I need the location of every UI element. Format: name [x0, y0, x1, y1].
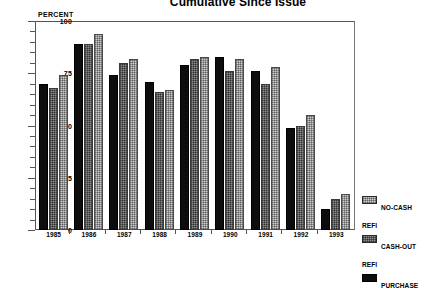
bar-group: [286, 22, 316, 230]
y-minor-tick: [30, 42, 35, 43]
bar-cashout: [84, 44, 93, 230]
bar-purchase: [215, 57, 224, 230]
y-tick-mark: [28, 126, 35, 127]
y-minor-tick: [30, 188, 35, 189]
y-tick-mark: [28, 178, 35, 179]
legend-item-purchase: PURCHASE: [362, 274, 428, 292]
chart-title: Cumulative Since Issue: [128, 0, 348, 9]
x-tick-label: 1991: [249, 231, 283, 238]
bar-series-layer: [36, 22, 354, 230]
bar-group: [321, 22, 351, 230]
bar-purchase: [251, 71, 260, 230]
y-tick-mark: [28, 21, 35, 22]
bar-purchase: [180, 65, 189, 230]
bar-cashout: [49, 88, 58, 230]
y-minor-tick: [30, 136, 35, 137]
x-tick-label: 1988: [143, 231, 177, 238]
y-minor-tick: [30, 63, 35, 64]
bar-nocash: [271, 67, 280, 230]
bar-purchase: [145, 82, 154, 230]
y-minor-tick: [30, 105, 35, 106]
x-tick-mark: [317, 230, 318, 234]
y-minor-tick: [30, 31, 35, 32]
y-tick-mark: [28, 230, 35, 231]
y-minor-tick: [30, 199, 35, 200]
bar-cashout: [190, 59, 199, 230]
x-tick-mark: [246, 230, 247, 234]
bar-group: [145, 22, 175, 230]
x-tick-label: 1992: [284, 231, 318, 238]
bar-nocash: [235, 59, 244, 230]
bar-group: [109, 22, 139, 230]
y-minor-tick: [30, 157, 35, 158]
x-tick-label: 1985: [37, 231, 71, 238]
x-tick-mark: [105, 230, 106, 234]
bar-purchase: [74, 44, 83, 230]
bar-nocash: [94, 34, 103, 230]
legend-item-nocash: NO-CASH REFI: [362, 196, 428, 232]
bar-group: [39, 22, 69, 230]
y-minor-tick: [30, 94, 35, 95]
x-tick-mark: [211, 230, 212, 234]
legend-label: CASH-OUT REFI: [362, 243, 416, 268]
bar-cashout: [261, 84, 270, 230]
bar-group: [180, 22, 210, 230]
bar-nocash: [306, 115, 315, 230]
x-tick-mark: [140, 230, 141, 234]
bar-nocash: [129, 59, 138, 230]
bar-nocash: [341, 194, 350, 230]
bar-purchase: [109, 75, 118, 230]
y-minor-tick: [30, 146, 35, 147]
bar-group: [251, 22, 281, 230]
bar-nocash: [165, 90, 174, 230]
bar-nocash: [59, 75, 68, 230]
x-tick-label: 1987: [107, 231, 141, 238]
legend-item-cashout: CASH-OUT REFI: [362, 235, 428, 271]
y-minor-tick: [30, 52, 35, 53]
x-tick-label: 1990: [213, 231, 247, 238]
x-tick-mark: [281, 230, 282, 234]
chart-legend: NO-CASH REFICASH-OUT REFIPURCHASE: [362, 196, 428, 292]
y-minor-tick: [30, 115, 35, 116]
legend-label: NO-CASH REFI: [362, 204, 412, 229]
x-tick-mark: [69, 230, 70, 234]
bar-nocash: [200, 57, 209, 230]
y-minor-tick: [30, 84, 35, 85]
bar-cashout: [331, 199, 340, 230]
y-minor-tick: [30, 167, 35, 168]
legend-swatch-cashout: [362, 235, 377, 243]
y-tick-mark: [28, 73, 35, 74]
y-minor-tick: [30, 220, 35, 221]
legend-swatch-purchase: [362, 274, 377, 282]
legend-swatch-nocash: [362, 196, 377, 204]
bar-cashout: [119, 63, 128, 230]
x-tick-label: 1989: [178, 231, 212, 238]
bar-purchase: [286, 128, 295, 230]
bar-group: [215, 22, 245, 230]
bar-cashout: [155, 92, 164, 230]
x-tick-label: 1993: [319, 231, 353, 238]
bar-cashout: [296, 126, 305, 231]
bar-cashout: [225, 71, 234, 230]
bar-group: [74, 22, 104, 230]
bar-purchase: [39, 84, 48, 230]
x-tick-mark: [175, 230, 176, 234]
bar-purchase: [321, 209, 330, 230]
y-minor-tick: [30, 209, 35, 210]
x-tick-label: 1986: [72, 231, 106, 238]
legend-label: PURCHASE: [381, 282, 418, 289]
